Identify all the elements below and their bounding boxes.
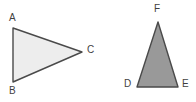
geometry-figure-canvas: A B C F D E	[0, 0, 196, 102]
geometry-figure-svg	[0, 0, 196, 102]
triangle-def-shape	[137, 22, 178, 87]
triangle-abc-shape	[13, 28, 82, 82]
vertex-label-e: E	[182, 79, 189, 89]
vertex-label-f: F	[154, 4, 160, 14]
vertex-label-c: C	[87, 45, 94, 55]
vertex-label-a: A	[9, 13, 16, 23]
vertex-label-d: D	[124, 79, 131, 89]
vertex-label-b: B	[9, 86, 16, 96]
